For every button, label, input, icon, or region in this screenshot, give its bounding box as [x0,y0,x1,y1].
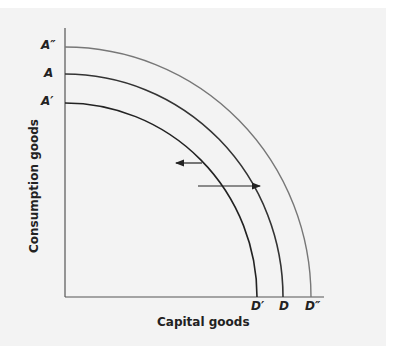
x-axis-title: Capital goods [157,315,250,329]
label-A: A [44,66,53,80]
label-A-prime: A′ [41,94,53,108]
curve-inner [65,103,257,297]
label-D-double-prime: D″ [305,299,320,313]
label-D-prime: D′ [251,299,264,313]
label-D: D [279,299,289,313]
label-A-double-prime: A″ [41,38,56,52]
curve-outer [65,47,311,297]
y-axis-title: Consumption goods [27,119,41,253]
ppf-diagram [0,0,402,353]
